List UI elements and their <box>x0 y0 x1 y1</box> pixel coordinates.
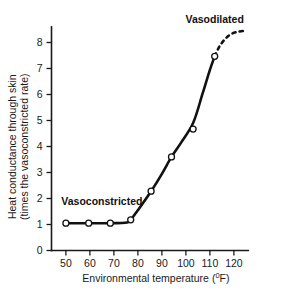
data-point-marker <box>86 220 92 226</box>
y-tick-label: 0 <box>37 244 43 256</box>
data-point-marker <box>148 188 154 194</box>
data-point-marker <box>63 220 69 226</box>
x-tick-label: 50 <box>60 257 72 269</box>
y-tick-label: 5 <box>37 114 43 126</box>
heat-conductance-line-chart: 5060708090100110120012345678Environmenta… <box>0 0 304 290</box>
x-tick-label: 60 <box>84 257 96 269</box>
data-point-marker <box>107 220 113 226</box>
y-axis-title-line2: (times the vasoconstricted rate) <box>18 73 30 219</box>
data-point-marker <box>128 217 134 223</box>
x-tick-label: 110 <box>202 257 219 269</box>
vasoconstricted-label: Vasoconstricted <box>61 195 142 207</box>
conductance-curve-dashed <box>215 31 246 56</box>
y-tick-label: 4 <box>37 140 43 152</box>
x-tick-label: 120 <box>225 257 243 269</box>
y-tick-label: 2 <box>37 192 43 204</box>
x-tick-label: 90 <box>156 257 168 269</box>
y-tick-label: 1 <box>37 218 43 230</box>
figure-container: 5060708090100110120012345678Environmenta… <box>0 0 304 290</box>
data-point-marker <box>190 126 196 132</box>
x-tick-label: 80 <box>132 257 144 269</box>
x-tick-label: 100 <box>177 257 195 269</box>
y-tick-label: 6 <box>37 88 43 100</box>
y-tick-label: 3 <box>37 166 43 178</box>
y-tick-label: 8 <box>37 36 43 48</box>
data-point-marker <box>212 53 218 59</box>
x-axis-title: Environmental temperature (0F) <box>82 270 229 284</box>
vasodilated-label: Vasodilated <box>186 13 244 25</box>
y-tick-label: 7 <box>37 62 43 74</box>
data-point-marker <box>169 154 175 160</box>
y-axis-title-line1: Heat conductance through skin <box>6 74 18 219</box>
x-tick-label: 70 <box>108 257 120 269</box>
